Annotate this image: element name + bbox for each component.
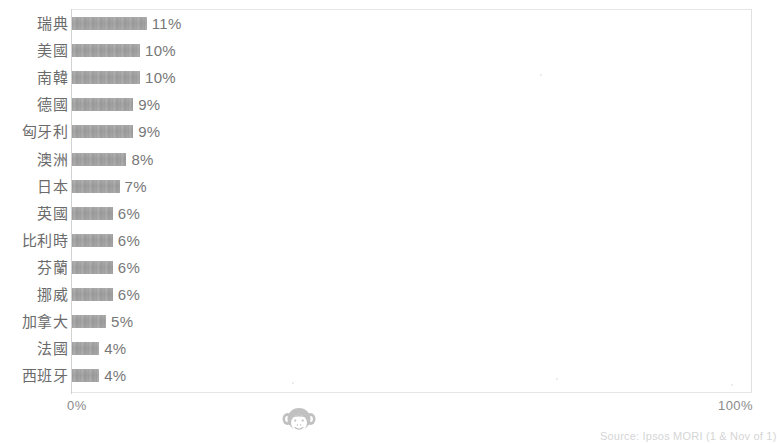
bar-track <box>72 261 113 274</box>
bar-track <box>72 44 140 57</box>
bar-value-label: 4% <box>104 362 126 389</box>
category-label: 瑞典 <box>0 10 68 37</box>
category-label: 芬蘭 <box>0 254 68 281</box>
bar-row: 芬蘭6% <box>0 254 765 281</box>
bar <box>72 44 140 57</box>
bar <box>72 207 113 220</box>
bar-value-label: 6% <box>118 227 140 254</box>
bar-track <box>72 153 126 166</box>
bar-row: 英國6% <box>0 200 765 227</box>
bar-track <box>72 98 133 111</box>
bar <box>72 261 113 274</box>
category-label: 美國 <box>0 37 68 64</box>
bar-row: 美國10% <box>0 37 765 64</box>
bar-value-label: 9% <box>138 118 160 145</box>
category-label: 澳洲 <box>0 146 68 173</box>
category-label: 德國 <box>0 91 68 118</box>
bar <box>72 180 120 193</box>
category-label: 日本 <box>0 173 68 200</box>
bar-row: 法國4% <box>0 335 765 362</box>
category-label: 西班牙 <box>0 362 68 389</box>
bar-value-label: 6% <box>118 254 140 281</box>
category-label: 比利時 <box>0 227 68 254</box>
bar-track <box>72 234 113 247</box>
bar <box>72 315 106 328</box>
bar-track <box>72 288 113 301</box>
bar <box>72 71 140 84</box>
bar-row: 挪威6% <box>0 281 765 308</box>
bar-row: 日本7% <box>0 173 765 200</box>
bar-row: 西班牙4% <box>0 362 765 389</box>
category-label: 加拿大 <box>0 308 68 335</box>
scan-speck <box>540 74 542 76</box>
category-label: 匈牙利 <box>0 118 68 145</box>
bar-row: 南韓10% <box>0 64 765 91</box>
bar-value-label: 10% <box>145 37 176 64</box>
bar <box>72 125 133 138</box>
bar-track <box>72 125 133 138</box>
monkey-face-watermark-icon <box>282 406 316 436</box>
bar-row: 匈牙利9% <box>0 118 765 145</box>
bar-track <box>72 342 99 355</box>
x-axis-tick-left: 0% <box>67 398 87 413</box>
bar-track <box>72 369 99 382</box>
scan-speck <box>731 384 733 386</box>
bar-row: 德國9% <box>0 91 765 118</box>
category-label: 英國 <box>0 200 68 227</box>
bar-value-label: 6% <box>118 281 140 308</box>
bar <box>72 17 147 30</box>
bar-value-label: 8% <box>131 146 153 173</box>
scan-speck <box>556 378 558 380</box>
bar <box>72 288 113 301</box>
bar <box>72 98 133 111</box>
bar <box>72 342 99 355</box>
category-label: 挪威 <box>0 281 68 308</box>
bar-track <box>72 17 147 30</box>
bar-value-label: 11% <box>152 10 182 37</box>
bar-track <box>72 207 113 220</box>
bar-value-label: 5% <box>111 308 133 335</box>
bar-row: 加拿大5% <box>0 308 765 335</box>
x-axis-tick-right: 100% <box>718 398 753 413</box>
bar-value-label: 7% <box>125 173 147 200</box>
bar <box>72 369 99 382</box>
bar-value-label: 6% <box>118 200 140 227</box>
category-label: 南韓 <box>0 64 68 91</box>
bar-track <box>72 71 140 84</box>
bar-track <box>72 180 120 193</box>
bar-value-label: 9% <box>138 91 160 118</box>
category-label: 法國 <box>0 335 68 362</box>
bar-row: 澳洲8% <box>0 146 765 173</box>
source-note: Source: Ipsos MORI (1 & Nov of 1) <box>600 430 777 442</box>
bar-row: 瑞典11% <box>0 10 765 37</box>
bar-row: 比利時6% <box>0 227 765 254</box>
bar-value-label: 10% <box>145 64 176 91</box>
bar-value-label: 4% <box>104 335 126 362</box>
bar-track <box>72 315 106 328</box>
bar <box>72 153 126 166</box>
scan-speck <box>292 382 294 384</box>
bar <box>72 234 113 247</box>
